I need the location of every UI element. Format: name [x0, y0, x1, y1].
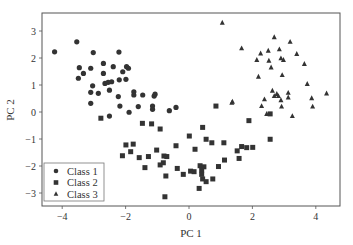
y-tick-label: −3	[25, 188, 36, 199]
legend-label: Class 1	[67, 166, 98, 177]
data-point-square	[175, 166, 180, 171]
data-point-square	[221, 140, 226, 145]
data-point-square	[181, 172, 186, 177]
data-point-circle	[140, 92, 145, 97]
data-point-circle	[91, 50, 96, 55]
data-point-circle	[109, 79, 114, 84]
data-point-circle	[88, 90, 93, 95]
data-point-circle	[88, 101, 93, 106]
data-point-circle	[77, 65, 82, 70]
data-point-square	[244, 145, 249, 150]
data-point-circle	[173, 105, 178, 110]
data-point-square	[239, 144, 244, 149]
data-point-square	[149, 121, 154, 126]
x-tick-label: −4	[57, 211, 68, 222]
data-point-circle	[150, 107, 155, 112]
y-tick-label: −2	[25, 161, 36, 172]
data-point-square	[192, 169, 197, 174]
y-tick-label: 2	[31, 53, 36, 64]
data-point-circle	[74, 39, 79, 44]
data-point-circle	[96, 91, 101, 96]
data-point-square	[142, 165, 147, 170]
data-point-square	[200, 125, 205, 130]
chart-background	[0, 0, 353, 245]
data-point-square	[199, 168, 204, 173]
data-point-circle	[90, 83, 95, 88]
y-tick-label: 3	[31, 26, 36, 37]
legend-square-icon	[54, 180, 59, 185]
x-tick-label: 4	[313, 211, 318, 222]
legend: Class 1Class 2Class 3	[44, 163, 104, 201]
data-point-square	[209, 140, 214, 145]
data-point-square	[123, 142, 128, 147]
data-point-square	[204, 179, 209, 184]
scatter-plot: −4−2024 −3−2−10123 PC 1 PC 2 Class 1Clas…	[0, 0, 353, 245]
data-point-circle	[123, 77, 128, 82]
data-point-circle	[131, 92, 136, 97]
data-point-circle	[101, 61, 106, 66]
data-point-square	[158, 162, 163, 167]
data-point-square	[163, 173, 168, 178]
data-point-circle	[107, 88, 112, 93]
data-point-square	[187, 134, 192, 139]
data-point-square	[98, 116, 103, 121]
data-point-square	[250, 145, 255, 150]
data-point-circle	[81, 71, 86, 76]
x-tick-label: −2	[120, 211, 131, 222]
data-point-circle	[117, 103, 122, 108]
data-point-square	[199, 172, 204, 177]
data-point-square	[235, 148, 240, 153]
y-tick-label: 0	[31, 107, 36, 118]
data-point-square	[210, 176, 215, 181]
data-point-circle	[126, 66, 131, 71]
data-point-circle	[120, 69, 125, 74]
data-point-square	[216, 164, 221, 169]
legend-label: Class 3	[67, 189, 98, 200]
data-point-circle	[136, 104, 141, 109]
data-point-square	[164, 154, 169, 159]
data-point-square	[246, 118, 251, 123]
data-point-circle	[117, 77, 122, 82]
data-point-circle	[126, 110, 131, 115]
data-point-circle	[116, 49, 121, 54]
data-point-square	[137, 155, 142, 160]
x-axis-label: PC 1	[180, 227, 202, 239]
data-point-square	[162, 194, 167, 199]
data-point-square	[204, 137, 209, 142]
data-point-square	[222, 158, 227, 163]
data-point-square	[174, 143, 179, 148]
data-point-square	[237, 156, 242, 161]
data-point-circle	[52, 49, 57, 54]
data-point-square	[131, 142, 136, 147]
data-point-square	[120, 153, 125, 158]
data-point-square	[154, 148, 159, 153]
data-point-square	[146, 154, 151, 159]
y-axis-label: PC 2	[4, 99, 16, 121]
data-point-square	[213, 104, 218, 109]
data-point-circle	[152, 92, 157, 97]
legend-circle-icon	[54, 169, 59, 174]
y-tick-label: −1	[25, 134, 36, 145]
data-point-square	[193, 147, 198, 152]
x-tick-label: 0	[187, 211, 192, 222]
data-point-square	[128, 149, 133, 154]
data-point-circle	[88, 66, 93, 71]
data-point-square	[268, 137, 273, 142]
y-tick-label: 1	[31, 80, 36, 91]
legend-label: Class 2	[67, 177, 98, 188]
x-tick-label: 2	[250, 211, 255, 222]
data-point-circle	[76, 76, 81, 81]
data-point-circle	[116, 94, 121, 99]
data-point-circle	[167, 108, 172, 113]
data-point-square	[158, 127, 163, 132]
data-point-circle	[107, 113, 112, 118]
data-point-square	[140, 121, 145, 126]
data-point-circle	[101, 71, 106, 76]
data-point-square	[197, 186, 202, 191]
data-point-circle	[111, 64, 116, 69]
